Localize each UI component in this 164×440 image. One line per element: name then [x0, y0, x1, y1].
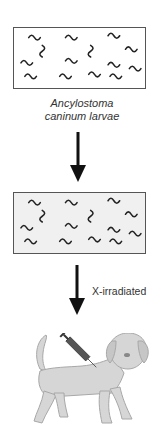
- larva-icon: [65, 223, 77, 228]
- larva-icon: [89, 237, 101, 242]
- larva-icon: [108, 62, 120, 67]
- larva-icon: [25, 74, 37, 79]
- larva-icon: [108, 33, 120, 38]
- larva-icon: [40, 210, 45, 222]
- larva-icon: [65, 200, 77, 205]
- larva-icon: [88, 210, 93, 222]
- larva-icon: [40, 45, 45, 57]
- syringe-icon: [60, 333, 100, 370]
- larvae-caption: Ancylostoma caninum larvae: [0, 97, 164, 123]
- larvae-caption-line-2: caninum larvae: [0, 110, 164, 123]
- larva-icon: [108, 198, 120, 203]
- down-arrow-icon: [67, 265, 87, 317]
- dog-icon: [34, 333, 148, 423]
- larva-icon: [129, 231, 141, 236]
- down-arrow-icon: [68, 132, 88, 184]
- larva-icon: [21, 225, 33, 230]
- dog-nose: [124, 353, 130, 357]
- larvae-group: [14, 193, 145, 253]
- larvae-caption-line-1: Ancylostoma: [0, 97, 164, 110]
- larva-icon: [129, 66, 141, 71]
- larva-icon: [110, 74, 122, 79]
- larva-icon: [21, 60, 33, 65]
- larva-icon: [29, 200, 41, 205]
- larva-icon: [65, 58, 77, 63]
- dog-illustration: [20, 333, 150, 433]
- larva-icon: [60, 74, 72, 79]
- larva-icon: [125, 212, 137, 217]
- larva-icon: [65, 35, 77, 40]
- larva-icon: [29, 35, 41, 40]
- larva-icon: [88, 45, 93, 57]
- x-irradiated-label: X-irradiated: [92, 285, 146, 297]
- larva-icon: [89, 72, 101, 77]
- larva-icon: [60, 239, 72, 244]
- larva-icon: [108, 227, 120, 232]
- larvae-box-untreated: [13, 27, 146, 89]
- larva-icon: [25, 239, 37, 244]
- larva-icon: [110, 239, 122, 244]
- larvae-box-irradiated: [13, 192, 146, 254]
- larva-icon: [125, 47, 137, 52]
- larvae-group: [14, 28, 145, 88]
